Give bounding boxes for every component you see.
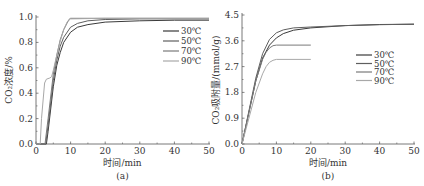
y-tick-label: 0.2 [19,114,33,124]
y-tick-label: 2.7 [225,62,240,72]
legend-label: 30℃ [181,26,201,36]
x-axis-label: 时间/min [103,157,141,168]
y-tick-label: 3.6 [225,36,240,46]
x-tick-label: 50 [203,146,215,156]
x-tick-label: 40 [169,146,181,156]
x-tick-label: 0 [33,146,39,156]
y-tick-label: 0.0 [225,139,240,149]
panel-subtitle: (b) [322,171,335,181]
legend-label: 90℃ [181,56,201,66]
y-tick-label: 4.5 [225,10,240,20]
panel-subtitle: (a) [116,171,128,181]
x-tick-label: 40 [374,146,386,156]
chart-canvas: 010203040500.00.20.40.60.81.030℃50℃70℃90… [0,0,424,186]
y-tick-label: 0.0 [19,139,34,149]
x-tick-label: 0 [239,146,245,156]
y-axis-label: CO₂吸附量/(mmol/g) [210,35,221,124]
chart-panel-a: 010203040500.00.20.40.60.81.030℃50℃70℃90… [3,12,215,181]
series-line [242,59,311,144]
legend-label: 50℃ [181,36,201,46]
x-tick-label: 20 [305,146,317,156]
chart-panel-b: 010203040500.00.91.82.73.64.530℃50℃70℃90… [210,10,420,181]
figure: 010203040500.00.20.40.60.81.030℃50℃70℃90… [0,0,424,186]
y-tick-label: 0.4 [19,88,34,98]
x-tick-label: 10 [271,146,283,156]
x-tick-label: 10 [65,146,77,156]
y-tick-label: 0.8 [19,37,34,47]
x-tick-label: 50 [408,146,420,156]
x-tick-label: 20 [99,146,111,156]
y-tick-label: 0.9 [225,113,240,123]
y-tick-label: 1.8 [225,87,240,97]
y-tick-label: 1.0 [19,12,34,22]
y-tick-label: 0.6 [19,63,34,73]
series-line [242,45,311,144]
y-axis-label: CO₂浓度/% [3,56,14,104]
legend-label: 90℃ [374,76,394,86]
x-axis-label: 时间/min [309,157,347,168]
x-tick-label: 30 [134,146,146,156]
x-tick-label: 30 [339,146,351,156]
legend-label: 70℃ [181,46,201,56]
